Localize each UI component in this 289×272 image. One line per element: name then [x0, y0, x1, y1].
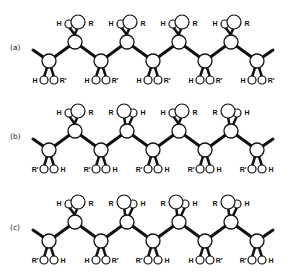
carbon-atom [120, 124, 134, 138]
substituent-atom [102, 256, 110, 264]
carbon-atom [198, 143, 212, 157]
top-left-label: R [108, 200, 113, 207]
bottom-left-label: R′ [136, 166, 143, 173]
carbon-atom [68, 35, 82, 49]
bottom-right-label: R′ [164, 77, 171, 84]
substituent-atom [40, 256, 48, 264]
bottom-substituent: R′H [188, 155, 222, 173]
bottom-right-label: R′ [60, 77, 67, 84]
chain-row-3: (c)HRRHRHRHR′HHR′R′HHR′R′H [10, 195, 274, 264]
top-substituent: RH [160, 195, 197, 217]
r-group-atom [71, 104, 85, 118]
substituent-atom [196, 256, 204, 264]
r-group-atom [227, 15, 241, 29]
r-group-atom [123, 15, 137, 29]
top-substituent: RH [108, 104, 145, 126]
top-right-label: R [88, 109, 93, 116]
top-left-label: H [108, 20, 113, 27]
bottom-left-label: H [84, 257, 89, 264]
top-substituent: HR [56, 15, 93, 37]
r-group-atom [221, 195, 235, 209]
top-left-label: R [108, 109, 113, 116]
bottom-substituent: HR′ [84, 246, 118, 264]
carbon-atom [120, 35, 134, 49]
bottom-right-label: H [112, 166, 117, 173]
bottom-right-label: H [60, 257, 65, 264]
carbon-atom [224, 35, 238, 49]
bottom-substituent: R′H [136, 155, 170, 173]
top-right-label: R [140, 20, 145, 27]
bottom-left-label: H [188, 77, 193, 84]
tacticity-diagram: (a)HRHRHRHRHR′HR′HR′HR′HR′(b)HRRHHRRHR′H… [0, 0, 289, 272]
substituent-atom [50, 76, 58, 84]
carbon-atom [250, 143, 264, 157]
substituent-atom [102, 76, 110, 84]
r-group-atom [169, 195, 183, 209]
bottom-substituent: HR′ [32, 66, 66, 84]
bottom-substituent: R′H [32, 246, 66, 264]
substituent-atom [102, 165, 110, 173]
bottom-left-label: R′ [136, 257, 143, 264]
bottom-left-label: H [188, 257, 193, 264]
bottom-right-label: H [268, 257, 273, 264]
substituent-atom [206, 256, 214, 264]
carbon-atom [172, 124, 186, 138]
bottom-substituent: R′H [240, 155, 274, 173]
row-label: (c) [10, 223, 20, 232]
top-right-label: H [140, 109, 145, 116]
bottom-substituent: HR′ [136, 66, 170, 84]
bottom-right-label: H [60, 166, 65, 173]
bottom-substituent: HR′ [84, 66, 118, 84]
substituent-atom [92, 165, 100, 173]
substituent-atom [40, 76, 48, 84]
bottom-right-label: R′ [216, 257, 223, 264]
bottom-left-label: R′ [32, 257, 39, 264]
substituent-atom [258, 165, 266, 173]
r-group-atom [221, 104, 235, 118]
polymer-chains-svg: (a)HRHRHRHRHR′HR′HR′HR′HR′(b)HRRHHRRHR′H… [0, 0, 289, 272]
bottom-left-label: R′ [32, 166, 39, 173]
substituent-atom [92, 76, 100, 84]
carbon-atom [68, 215, 82, 229]
substituent-atom [258, 256, 266, 264]
substituent-atom [92, 256, 100, 264]
top-substituent: HR [108, 15, 145, 37]
top-right-label: R [88, 200, 93, 207]
bottom-right-label: H [164, 166, 169, 173]
r-group-atom [117, 195, 131, 209]
top-left-label: H [56, 20, 61, 27]
top-left-label: H [212, 20, 217, 27]
bottom-right-label: R′ [268, 77, 275, 84]
substituent-atom [206, 76, 214, 84]
carbon-atom [172, 215, 186, 229]
chain-row-2: (b)HRRHHRRHR′HR′HR′HR′HR′H [10, 104, 274, 173]
top-left-label: H [56, 109, 61, 116]
carbon-atom [224, 215, 238, 229]
top-substituent: RH [212, 104, 249, 126]
bottom-left-label: H [240, 77, 245, 84]
carbon-atom [172, 35, 186, 49]
carbon-atom [68, 124, 82, 138]
substituent-atom [50, 165, 58, 173]
top-right-label: H [192, 200, 197, 207]
substituent-atom [154, 256, 162, 264]
r-group-atom [71, 15, 85, 29]
substituent-atom [258, 76, 266, 84]
top-right-label: H [244, 109, 249, 116]
bottom-substituent: R′H [32, 155, 66, 173]
top-substituent: HR [160, 104, 197, 126]
top-left-label: R [212, 200, 217, 207]
r-group-atom [175, 15, 189, 29]
top-substituent: HR [160, 15, 197, 37]
bottom-left-label: H [84, 77, 89, 84]
carbon-atom [224, 124, 238, 138]
carbon-atom [250, 234, 264, 248]
r-group-atom [175, 104, 189, 118]
top-substituent: RH [212, 195, 249, 217]
bottom-substituent: R′H [136, 246, 170, 264]
top-substituent: RH [108, 195, 145, 217]
substituent-atom [196, 165, 204, 173]
bottom-right-label: H [268, 166, 273, 173]
carbon-atom [42, 143, 56, 157]
substituent-atom [50, 256, 58, 264]
